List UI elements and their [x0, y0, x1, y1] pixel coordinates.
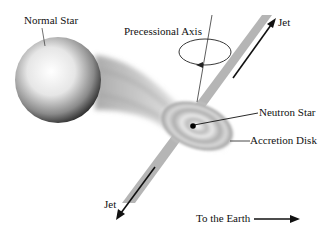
precessional-axis-label: Precessional Axis [124, 25, 202, 37]
earth-arrowhead-icon [290, 215, 300, 223]
neutron-star [190, 123, 196, 129]
neutron-star-label: Neutron Star [259, 106, 316, 118]
jet-top-label: Jet [278, 16, 290, 28]
to-earth-label: To the Earth [196, 212, 250, 224]
normal-star-label: Normal Star [24, 14, 78, 26]
jet-bottom-label: Jet [104, 198, 116, 210]
jet-arrow-down [121, 167, 155, 213]
accretion-disk-label: Accretion Disk [250, 134, 317, 146]
precession-rotation-icon [179, 39, 231, 65]
normal-star [15, 37, 101, 123]
precession-arrowhead-icon [196, 62, 203, 68]
